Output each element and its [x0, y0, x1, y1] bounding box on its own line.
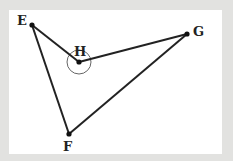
- vertex-label-h: H: [74, 45, 86, 58]
- vertex-g: [184, 31, 189, 36]
- vertex-label-g: G: [193, 25, 204, 38]
- vertex-f: [66, 131, 71, 136]
- edge-fe: [32, 25, 69, 134]
- vertex-h: [76, 59, 81, 64]
- vertex-e: [29, 22, 34, 27]
- vertex-label-f: F: [63, 140, 72, 153]
- vertex-label-e: E: [17, 14, 27, 27]
